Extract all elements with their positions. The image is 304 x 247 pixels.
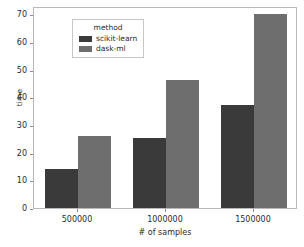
x-axis-label: # of samples bbox=[33, 228, 297, 237]
bar-scikit-learn-1500000 bbox=[221, 105, 254, 208]
y-tick-label: 50 bbox=[5, 67, 27, 75]
legend-swatch-icon bbox=[79, 46, 92, 52]
legend-swatch-icon bbox=[79, 36, 92, 42]
y-tick-label: 0 bbox=[5, 205, 27, 213]
x-tick-label: 1500000 bbox=[213, 215, 293, 224]
bar-scikit-learn-500000 bbox=[45, 169, 78, 208]
y-tick-mark bbox=[30, 209, 33, 210]
x-tick-label: 1000000 bbox=[125, 215, 205, 224]
y-tick-label: 40 bbox=[5, 94, 27, 102]
chart-figure: time 010203040506070 method scikit-learn… bbox=[0, 0, 304, 247]
bar-scikit-learn-1000000 bbox=[133, 138, 166, 208]
legend-entry-scikit-learn: scikit-learn bbox=[79, 34, 137, 43]
legend-label: scikit-learn bbox=[96, 34, 137, 43]
y-tick-label: 60 bbox=[5, 39, 27, 47]
bar-dask-ml-500000 bbox=[78, 136, 111, 208]
legend-entry-dask-ml: dask-ml bbox=[79, 44, 137, 53]
legend-title: method bbox=[79, 23, 137, 32]
plot-area: method scikit-learndask-ml bbox=[33, 7, 297, 209]
bar-dask-ml-1000000 bbox=[166, 80, 199, 208]
x-tick-label: 500000 bbox=[37, 215, 117, 224]
y-tick-label: 20 bbox=[5, 150, 27, 158]
bar-dask-ml-1500000 bbox=[254, 14, 287, 208]
y-tick-label: 70 bbox=[5, 11, 27, 19]
x-tick-mark bbox=[165, 209, 166, 212]
x-tick-mark bbox=[253, 209, 254, 212]
y-tick-label: 30 bbox=[5, 122, 27, 130]
x-tick-mark bbox=[77, 209, 78, 212]
y-tick-label: 10 bbox=[5, 177, 27, 185]
legend-label: dask-ml bbox=[96, 44, 126, 53]
legend-entries: scikit-learndask-ml bbox=[79, 34, 137, 53]
chart-legend: method scikit-learndask-ml bbox=[72, 19, 144, 58]
